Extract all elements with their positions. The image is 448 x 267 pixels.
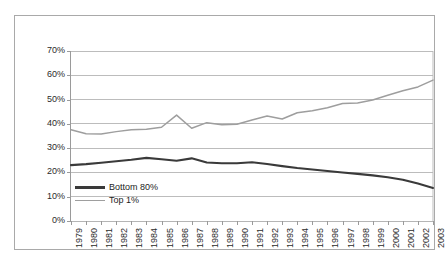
chart-legend: Bottom 80% Top 1% — [75, 182, 158, 208]
x-axis-label: 1988 — [211, 228, 220, 248]
x-tick-mark — [433, 221, 434, 225]
legend-swatch-top-1 — [75, 200, 105, 202]
x-axis-label: 1991 — [256, 228, 265, 248]
x-tick-mark — [282, 221, 283, 225]
x-tick-mark — [237, 221, 238, 225]
x-axis-label: 1983 — [135, 228, 144, 248]
x-tick-mark — [162, 221, 163, 225]
x-axis-label: 1987 — [196, 228, 205, 248]
x-tick-mark — [71, 221, 72, 225]
x-tick-mark — [101, 221, 102, 225]
x-axis-label: 1993 — [286, 228, 295, 248]
x-tick-mark — [388, 221, 389, 225]
chart-frame: 0%10%20%30%40%50%60%70% 1979198019811982… — [14, 15, 435, 250]
legend-label-top-1: Top 1% — [109, 196, 139, 205]
x-axis-label: 1979 — [75, 228, 84, 248]
x-axis-label: 1982 — [120, 228, 129, 248]
legend-item-top-1: Top 1% — [75, 195, 158, 206]
x-axis-label: 1998 — [362, 228, 371, 248]
x-axis-label: 1994 — [301, 228, 310, 248]
x-tick-mark — [252, 221, 253, 225]
x-tick-mark — [403, 221, 404, 225]
legend-swatch-bottom-80 — [75, 186, 105, 189]
x-tick-mark — [373, 221, 374, 225]
x-tick-mark — [116, 221, 117, 225]
x-axis-label: 1990 — [241, 228, 250, 248]
chart-screenshot: 0%10%20%30%40%50%60%70% 1979198019811982… — [0, 0, 448, 267]
x-axis-label: 1996 — [331, 228, 340, 248]
x-tick-mark — [207, 221, 208, 225]
x-axis-label: 2000 — [392, 228, 401, 248]
x-tick-mark — [267, 221, 268, 225]
x-tick-mark — [131, 221, 132, 225]
x-tick-mark — [177, 221, 178, 225]
x-axis-label: 1997 — [347, 228, 356, 248]
x-tick-mark — [192, 221, 193, 225]
x-tick-mark — [312, 221, 313, 225]
x-tick-mark — [222, 221, 223, 225]
x-axis-label: 2003 — [437, 228, 446, 248]
x-tick-mark — [418, 221, 419, 225]
x-axis-label: 1984 — [150, 228, 159, 248]
x-tick-mark — [358, 221, 359, 225]
x-tick-mark — [86, 221, 87, 225]
x-axis-label: 1989 — [226, 228, 235, 248]
x-axis-label: 2002 — [422, 228, 431, 248]
x-axis-label: 1985 — [166, 228, 175, 248]
x-tick-mark — [343, 221, 344, 225]
x-tick-mark — [146, 221, 147, 225]
x-axis-ticks: 1979198019811982198319841985198619871988… — [15, 16, 448, 267]
legend-label-bottom-80: Bottom 80% — [109, 183, 158, 192]
x-tick-mark — [327, 221, 328, 225]
x-axis-label: 2001 — [407, 228, 416, 248]
legend-item-bottom-80: Bottom 80% — [75, 182, 158, 193]
x-axis-label: 1995 — [316, 228, 325, 248]
x-axis-label: 1999 — [377, 228, 386, 248]
x-axis-label: 1981 — [105, 228, 114, 248]
x-axis-label: 1986 — [181, 228, 190, 248]
x-axis-label: 1980 — [90, 228, 99, 248]
x-tick-mark — [297, 221, 298, 225]
x-axis-label: 1992 — [271, 228, 280, 248]
